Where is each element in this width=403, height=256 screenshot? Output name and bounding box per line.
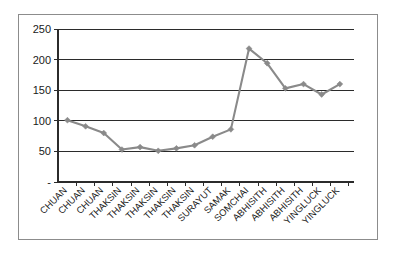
- chart-container: 25020015010050- CHUANCHUANCHUANTHAKSINTH…: [18, 14, 378, 240]
- series-line-path: [67, 49, 339, 151]
- y-tick-label: 100: [33, 115, 51, 127]
- x-category-labels-group: CHUANCHUANCHUANTHAKSINTHAKSINTHAKSINTHAK…: [38, 184, 342, 226]
- y-tick-label: 250: [33, 23, 51, 35]
- y-tick-label: 50: [39, 145, 51, 157]
- y-tick-label: 200: [33, 54, 51, 66]
- data-point-marker: [155, 148, 161, 154]
- axis-ticks-group: [54, 29, 349, 186]
- data-point-marker: [174, 145, 180, 151]
- line-chart: 25020015010050- CHUANCHUANCHUANTHAKSINTH…: [19, 15, 377, 239]
- data-point-marker: [228, 126, 234, 132]
- data-point-marker: [65, 117, 71, 123]
- y-tick-label: -: [47, 176, 51, 188]
- data-point-marker: [83, 123, 89, 129]
- data-point-markers-group: [65, 46, 343, 154]
- data-point-marker: [137, 144, 143, 150]
- y-tick-labels-group: 25020015010050-: [33, 23, 52, 188]
- y-tick-label: 150: [33, 84, 51, 96]
